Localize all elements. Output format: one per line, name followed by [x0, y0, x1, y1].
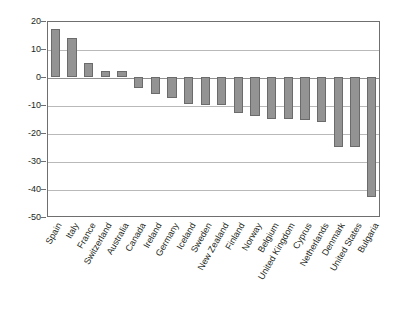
bar[interactable] — [350, 77, 359, 147]
y-tick-label: -20 — [28, 129, 41, 138]
bar[interactable] — [184, 77, 193, 104]
bar-slot — [280, 21, 297, 217]
x-label-slot: Iceland — [180, 219, 197, 315]
y-tick-mark — [41, 133, 46, 134]
bar[interactable] — [217, 77, 226, 105]
bar-slot — [164, 21, 181, 217]
bar[interactable] — [134, 77, 143, 88]
y-tick-mark — [41, 217, 46, 218]
bar[interactable] — [250, 77, 259, 116]
bar[interactable] — [67, 38, 76, 77]
y-tick-mark — [41, 189, 46, 190]
bar-slot — [180, 21, 197, 217]
x-label-slot: Australia — [114, 219, 131, 315]
bar-slot — [313, 21, 330, 217]
y-tick-label: -10 — [28, 101, 41, 110]
bar-slot — [114, 21, 131, 217]
x-label-slot: Switzerland — [97, 219, 114, 315]
x-label-slot: Ireland — [147, 219, 164, 315]
y-tick-mark — [41, 77, 46, 78]
y-tick-mark — [41, 21, 46, 22]
bar[interactable] — [234, 77, 243, 113]
y-tick-label: 10 — [31, 45, 41, 54]
x-label-slot: Italy — [64, 219, 81, 315]
x-label-slot: Spain — [47, 219, 64, 315]
x-label-slot: Finland — [230, 219, 247, 315]
bar-slot — [247, 21, 264, 217]
x-tick-label: Spain — [44, 221, 64, 246]
y-tick-mark — [41, 105, 46, 106]
bar-slot — [64, 21, 81, 217]
y-tick-mark — [41, 49, 46, 50]
bar-slot — [214, 21, 231, 217]
bar-slot — [97, 21, 114, 217]
y-tick-label: 20 — [31, 17, 41, 26]
bar-series — [47, 21, 380, 217]
bar[interactable] — [317, 77, 326, 122]
bar-slot — [80, 21, 97, 217]
bar[interactable] — [284, 77, 293, 119]
y-tick-mark — [41, 161, 46, 162]
y-tick-label: -30 — [28, 157, 41, 166]
y-tick-label: -50 — [28, 213, 41, 222]
bar-chart: 20100-10-20-30-40-50 SpainItalyFranceSwi… — [0, 0, 397, 315]
x-label-slot: Canada — [130, 219, 147, 315]
y-axis: 20100-10-20-30-40-50 — [0, 21, 45, 217]
bar-slot — [130, 21, 147, 217]
bar-slot — [230, 21, 247, 217]
bar[interactable] — [367, 77, 376, 197]
bar[interactable] — [101, 71, 110, 77]
bar[interactable] — [267, 77, 276, 119]
x-label-slot: United States — [347, 219, 364, 315]
bar[interactable] — [151, 77, 160, 94]
x-label-slot: France — [80, 219, 97, 315]
x-label-slot: United Kingdom — [280, 219, 297, 315]
bar-slot — [347, 21, 364, 217]
x-label-slot: Bulgaria — [363, 219, 380, 315]
bar-slot — [297, 21, 314, 217]
bar[interactable] — [117, 71, 126, 77]
bar[interactable] — [334, 77, 343, 147]
x-axis-labels: SpainItalyFranceSwitzerlandAustraliaCana… — [47, 219, 380, 315]
bar[interactable] — [300, 77, 309, 120]
bar-slot — [47, 21, 64, 217]
bar[interactable] — [167, 77, 176, 98]
x-label-slot: Germany — [164, 219, 181, 315]
bar-slot — [197, 21, 214, 217]
bar-slot — [147, 21, 164, 217]
y-tick-label: -40 — [28, 185, 41, 194]
x-label-slot: New Zealand — [214, 219, 231, 315]
bar[interactable] — [84, 63, 93, 77]
bar-slot — [263, 21, 280, 217]
bar[interactable] — [201, 77, 210, 105]
bar-slot — [363, 21, 380, 217]
bar[interactable] — [51, 29, 60, 77]
bar-slot — [330, 21, 347, 217]
